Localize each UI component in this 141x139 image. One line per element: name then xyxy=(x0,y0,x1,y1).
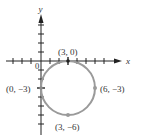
x-axis-label: x xyxy=(125,56,130,66)
point-label-3-neg6: (3, −6) xyxy=(55,122,80,132)
point-label-6-neg3: (6, −3) xyxy=(100,84,125,94)
point-label-0-neg3: (0, −3) xyxy=(6,84,31,94)
x-axis-arrow-icon xyxy=(114,59,122,64)
y-axis-arrow-icon xyxy=(39,14,44,23)
point-3-0 xyxy=(66,59,70,63)
point-6-neg3 xyxy=(93,86,97,90)
circle-curve xyxy=(41,61,95,115)
circle-graph: x y 0 (3, 0) (0, −3) (6, −3) (3, −6) xyxy=(0,0,141,139)
point-3-neg6 xyxy=(66,113,70,117)
point-0-neg3 xyxy=(39,86,43,90)
origin-label: 0 xyxy=(35,61,39,71)
y-axis-label: y xyxy=(38,4,43,14)
point-label-3-0: (3, 0) xyxy=(58,47,78,57)
